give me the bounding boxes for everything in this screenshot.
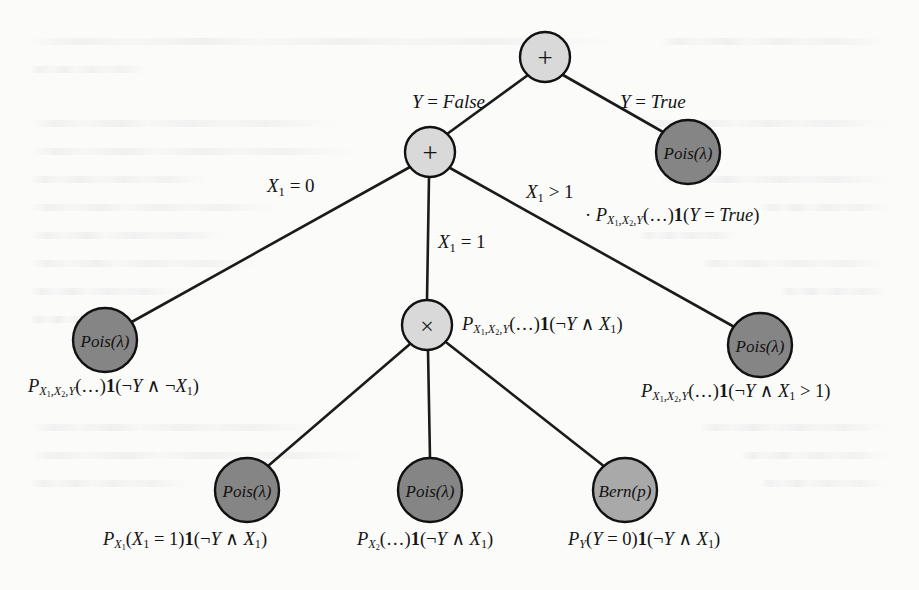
node-leaf-py[interactable]: Bern(p): [593, 458, 657, 522]
node-leaf-px2[interactable]: Pois(λ): [398, 458, 462, 522]
figure-canvas: + + × Pois(λ) Pois(λ) Pois(λ): [0, 0, 919, 590]
node-root-sum-label: +: [537, 43, 552, 73]
caption-leaf-x1-gt-1: PX1,X2,Y(…)1(¬Y ∧ X1 > 1): [641, 382, 831, 405]
node-leaf-px1[interactable]: Pois(λ): [215, 458, 279, 522]
node-leaf-x1-eq-0[interactable]: Pois(λ): [73, 308, 137, 372]
node-inner-sum-label: +: [422, 138, 437, 168]
edge-label-y-true: Y = True: [620, 92, 686, 111]
node-leaf-py-label: Bern(p): [599, 482, 652, 501]
node-leaf-x1-gt-1-label: Pois(λ): [735, 337, 785, 356]
edge-prod-to-leaf-px2: [428, 350, 430, 458]
edge-prod-to-leaf-py: [447, 343, 605, 467]
caption-leaf-px2: PX2(…)1(¬Y ∧ X1): [357, 530, 493, 553]
edge-label-y-false: Y = False: [412, 92, 485, 111]
edge-label-x1-eq-1: X1 = 1: [438, 232, 486, 254]
caption-leaf-py: PY(Y = 0)1(¬Y ∧ X1): [568, 530, 720, 551]
edge-prod-to-leaf-px1: [268, 344, 410, 466]
node-product-label: ×: [420, 313, 434, 339]
node-leaf-y-true[interactable]: Pois(λ): [656, 120, 720, 184]
edge-label-x1-gt-1: X1 > 1: [526, 182, 574, 204]
node-leaf-x1-gt-1[interactable]: Pois(λ): [728, 313, 792, 377]
caption-leaf-x1-eq-0: PX1,X2,Y(…)1(¬Y ∧ ¬X1): [28, 377, 199, 400]
edge-sum-to-leaf-x1-gt1: [450, 168, 738, 329]
edge-label-x1-eq-0: X1 = 0: [267, 176, 315, 198]
node-leaf-px2-label: Pois(λ): [405, 482, 455, 501]
node-leaf-px1-label: Pois(λ): [222, 482, 272, 501]
caption-product-node: PX1,X2,Y(…)1(¬Y ∧ X1): [462, 315, 623, 338]
node-leaf-x1-eq-0-label: Pois(λ): [80, 332, 130, 351]
caption-leaf-y-true: · PX1,X2,Y(…)1(Y = True): [585, 206, 759, 229]
node-root-sum[interactable]: +: [520, 32, 570, 82]
node-product[interactable]: ×: [402, 300, 452, 350]
node-inner-sum[interactable]: +: [405, 127, 455, 177]
caption-leaf-px1: PX1(X1 = 1)1(¬Y ∧ X1): [103, 530, 267, 553]
edge-sum-to-prod: [427, 177, 429, 300]
node-leaf-y-true-label: Pois(λ): [663, 144, 713, 163]
tree-diagram: + + × Pois(λ) Pois(λ) Pois(λ): [0, 0, 919, 590]
